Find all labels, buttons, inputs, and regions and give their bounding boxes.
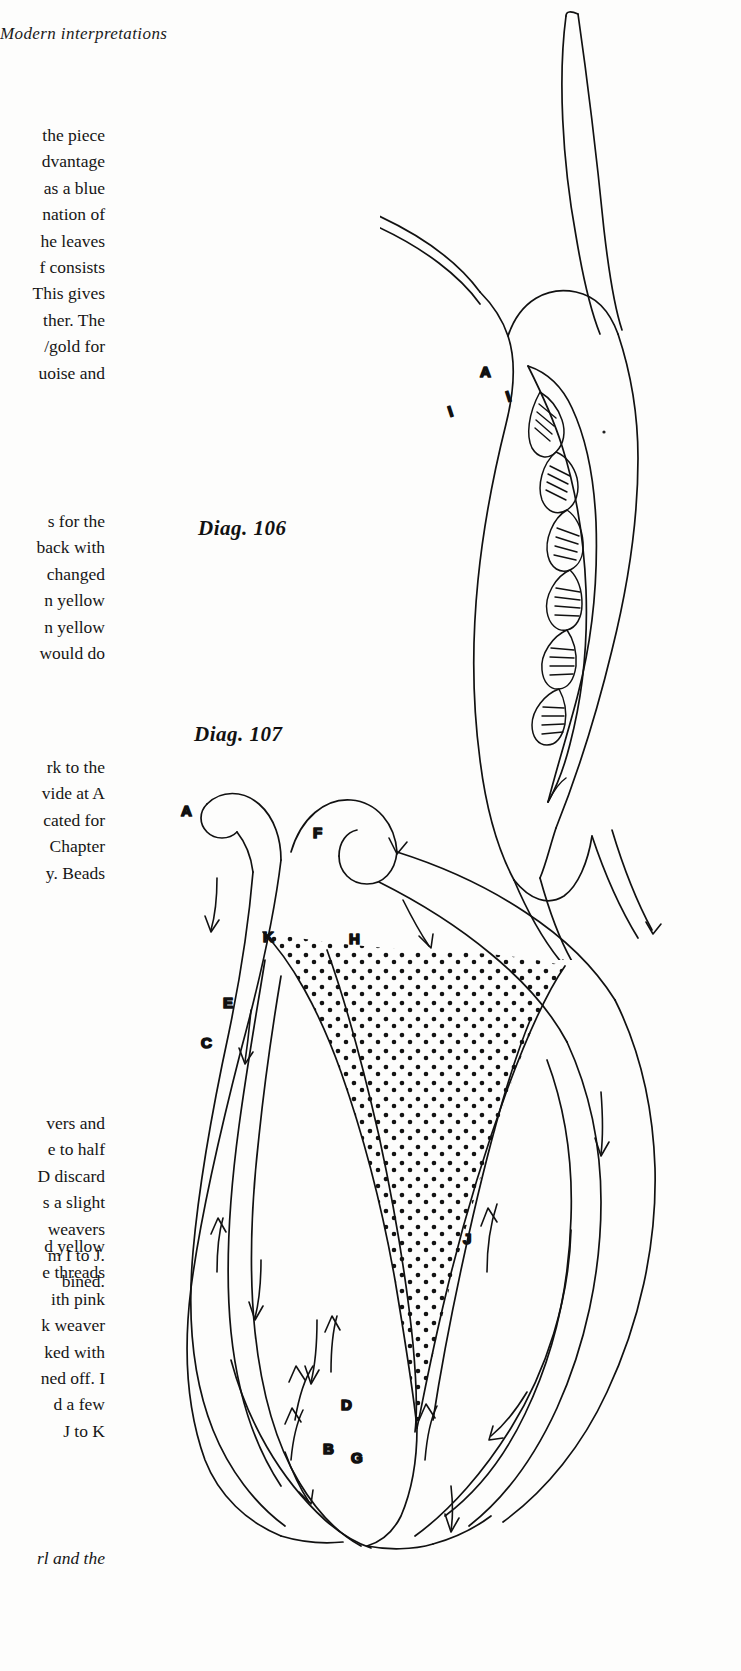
text-line: would do <box>0 640 105 666</box>
text-line: rk to the <box>0 754 105 780</box>
text-line: ith pink <box>0 1286 105 1312</box>
text-line: nation of <box>0 201 105 227</box>
body-paragraph-2: s for the back with changed n yellow n y… <box>0 508 105 666</box>
figure-label-G: G <box>351 1449 363 1466</box>
text-line: d a few <box>0 1391 105 1417</box>
running-head: Modern interpretations <box>0 24 260 44</box>
caption-diag-106: Diag. 106 <box>198 516 287 541</box>
figure-label-C: C <box>201 1034 212 1051</box>
text-line: k weaver <box>0 1312 105 1338</box>
text-line: vide at A <box>0 780 105 806</box>
figure-label-H: H <box>349 930 360 947</box>
text-line: as a blue <box>0 175 105 201</box>
text-line: s for the <box>0 508 105 534</box>
text-line: the piece <box>0 122 105 148</box>
text-line: back with <box>0 534 105 560</box>
figure-label-F: F <box>313 824 322 841</box>
figure-label-A: A <box>181 802 192 819</box>
text-line: e threads <box>0 1259 105 1285</box>
body-paragraph-3: rk to the vide at A cated for Chapter y.… <box>0 754 105 886</box>
text-line: /gold for <box>0 333 105 359</box>
figure-label-E: E <box>223 994 233 1011</box>
text-line: changed <box>0 561 105 587</box>
text-line: vers and <box>0 1110 105 1136</box>
text-line: n yellow <box>0 587 105 613</box>
book-page: Modern interpretations the piece dvantag… <box>0 0 741 1671</box>
text-line: Chapter <box>0 833 105 859</box>
text-line: cated for <box>0 807 105 833</box>
text-line: s a slight <box>0 1189 105 1215</box>
figure-label-D: D <box>341 1396 352 1413</box>
text-line: ked with <box>0 1339 105 1365</box>
text-line: ther. The <box>0 307 105 333</box>
text-line: ned off. I <box>0 1365 105 1391</box>
figure-label-B: B <box>323 1440 334 1457</box>
text-line: rl and the <box>0 1545 105 1571</box>
text-line: n yellow <box>0 614 105 640</box>
text-line: d yellow <box>0 1233 105 1259</box>
caption-diag-107: Diag. 107 <box>194 722 283 747</box>
text-line: J to K <box>0 1418 105 1444</box>
body-paragraph-5: d yellow e threads ith pink k weaver ked… <box>0 1233 105 1444</box>
text-line: uoise and <box>0 360 105 386</box>
body-paragraph-6: rl and the <box>0 1545 105 1571</box>
text-line: e to half <box>0 1136 105 1162</box>
text-line: This gives <box>0 280 105 306</box>
text-line: dvantage <box>0 148 105 174</box>
body-paragraph-1: the piece dvantage as a blue nation of h… <box>0 122 105 386</box>
text-line: D discard <box>0 1163 105 1189</box>
text-line: f consists <box>0 254 105 280</box>
figure-label-I-left: I <box>446 402 455 419</box>
text-line: y. Beads <box>0 860 105 886</box>
figure-label-J: J <box>463 1230 471 1247</box>
figure-label-K: K <box>263 928 274 945</box>
figure-label-A: A <box>480 363 491 380</box>
figure-diag-107: A F K H E C J D B G <box>95 760 741 1560</box>
text-line: he leaves <box>0 228 105 254</box>
